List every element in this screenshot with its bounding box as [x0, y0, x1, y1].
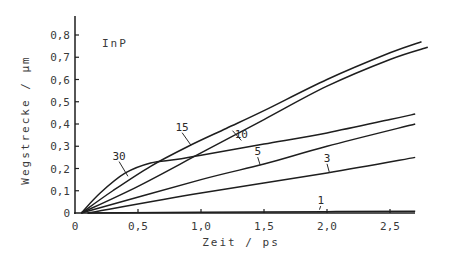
curve-5 [81, 124, 415, 213]
leader-line [327, 164, 330, 173]
curve-label-15: 15 [175, 121, 188, 134]
y-tick-label: 0,3 [50, 140, 70, 153]
y-tick-label: 0,1 [50, 185, 70, 198]
x-tick-label: 1,5 [254, 220, 274, 233]
curve-label-5: 5 [254, 145, 261, 158]
curve-label-1: 1 [317, 194, 324, 207]
x-tick-label: 2,0 [317, 220, 337, 233]
y-tick-label: 0 [63, 207, 70, 220]
x-tick-label: 1,0 [191, 220, 211, 233]
curve-label-30: 30 [112, 150, 125, 163]
y-tick-label: 0,4 [50, 118, 70, 131]
x-tick-label: 2,5 [380, 220, 400, 233]
y-tick-label: 0,8 [50, 29, 70, 42]
x-axis-title: Zeit / ps [202, 236, 280, 249]
curve-3 [88, 157, 416, 213]
x-tick-label: 0 [72, 220, 79, 233]
leader-line [182, 133, 191, 145]
x-tick-label: 0,5 [128, 220, 148, 233]
leader-line [258, 157, 261, 165]
curve-30 [81, 114, 415, 213]
y-tick-label: 0,6 [50, 74, 70, 87]
curve-label-3: 3 [324, 152, 331, 165]
line-chart: 00,51,01,52,02,5 00,10,20,30,40,50,60,70… [0, 0, 449, 266]
y-axis-title: Wegstrecke / µm [19, 55, 32, 184]
y-tick-label: 0,2 [50, 163, 70, 176]
material-annotation: InP [102, 37, 128, 50]
y-tick-label: 0,5 [50, 96, 70, 109]
y-tick-label: 0,7 [50, 51, 70, 64]
curves [81, 42, 428, 213]
curve-10 [81, 47, 428, 213]
